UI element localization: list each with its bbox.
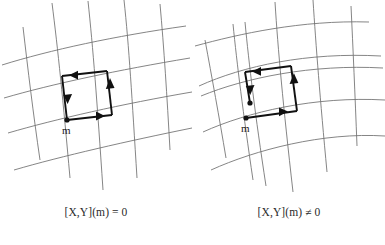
grid-line-h2 — [4, 58, 190, 98]
open-loop-group — [243, 66, 298, 121]
point-label-m-left: m — [62, 124, 71, 136]
caption-left: [X,Y](m) = 0 — [0, 206, 192, 218]
grid-line-v4 — [313, 0, 327, 172]
grid-line-v5 — [351, 6, 357, 146]
base-point-dot-icon — [64, 117, 69, 122]
commutator-figure: m [X,Y](m) = 0 — [0, 0, 385, 245]
flat-grid-panel: m [X,Y](m) = 0 — [0, 0, 192, 245]
arrow-up-icon — [290, 73, 299, 84]
loop-edge-top — [245, 66, 291, 72]
grid-line-h1 — [2, 26, 186, 65]
grid-line-v1 — [23, 27, 40, 160]
flat-grid-diagram — [0, 0, 192, 200]
closed-loop-group — [62, 71, 115, 123]
grid-lines-group — [2, 0, 192, 190]
base-point-dot-icon — [243, 115, 248, 120]
curved-grid-panel: m [X,Y](m) ≠ 0 — [193, 0, 385, 245]
loop-edge-right — [291, 66, 297, 111]
grid-line-h1 — [195, 22, 369, 46]
arrow-right-icon — [96, 112, 105, 121]
grid-line-h4 — [211, 135, 385, 170]
arrow-right-icon — [279, 107, 288, 116]
loop-edge-bottom — [246, 111, 297, 118]
curved-grid-diagram — [193, 0, 385, 200]
caption-right: [X,Y](m) ≠ 0 — [193, 206, 385, 218]
grid-line-h4 — [14, 128, 192, 170]
grid-line-v4 — [124, 0, 137, 178]
arrow-left-icon — [69, 71, 78, 80]
arrow-left-icon — [252, 67, 261, 76]
grid-line-v2 — [52, 3, 70, 178]
grid-line-v3 — [88, 1, 103, 190]
loop-endpoint-dot-icon — [247, 100, 252, 105]
grid-line-h3 — [203, 99, 385, 132]
grid-line-v1 — [205, 40, 226, 158]
point-label-m-right: m — [241, 122, 250, 134]
grid-line-v3 — [275, 2, 293, 192]
grid-line-v5 — [160, 4, 170, 150]
grid-lines-group — [195, 0, 385, 192]
loop-edge-top — [62, 71, 107, 76]
